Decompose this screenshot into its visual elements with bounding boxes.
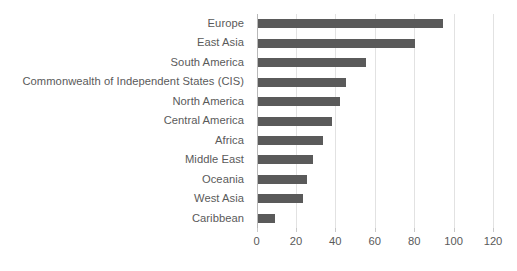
category-label: Middle East xyxy=(185,150,244,169)
tick-label: 80 xyxy=(394,235,434,247)
tick-label: 0 xyxy=(237,235,277,247)
tick-label: 120 xyxy=(473,235,513,247)
plot-area xyxy=(257,14,494,228)
bar xyxy=(258,136,323,145)
bar xyxy=(258,175,307,184)
tick-label: 20 xyxy=(276,235,316,247)
category-label: Africa xyxy=(215,131,244,150)
tick-label: 100 xyxy=(434,235,474,247)
category-label: South America xyxy=(171,53,244,72)
category-label: Oceania xyxy=(202,170,244,189)
bar-chart: EuropeEast AsiaSouth AmericaCommonwealth… xyxy=(0,0,517,271)
value-axis: 020406080100120 xyxy=(257,228,494,258)
category-label: North America xyxy=(172,92,244,111)
bar xyxy=(258,194,303,203)
tick-mark-80 xyxy=(414,228,415,232)
bar xyxy=(258,39,416,48)
bar xyxy=(258,117,333,126)
bar xyxy=(258,97,341,106)
bar xyxy=(258,155,313,164)
tick-mark-40 xyxy=(335,228,336,232)
gridline-120 xyxy=(493,14,494,228)
category-axis: EuropeEast AsiaSouth AmericaCommonwealth… xyxy=(0,14,250,228)
tick-mark-100 xyxy=(454,228,455,232)
tick-mark-120 xyxy=(493,228,494,232)
bar xyxy=(258,214,276,223)
category-label: East Asia xyxy=(197,33,244,52)
bar xyxy=(258,19,443,28)
gridline-100 xyxy=(454,14,455,228)
category-label: Caribbean xyxy=(192,209,244,228)
bar xyxy=(258,78,347,87)
category-label: Commonwealth of Independent States (CIS) xyxy=(22,72,244,91)
tick-mark-0 xyxy=(257,228,258,232)
category-label: Central America xyxy=(164,111,244,130)
tick-mark-60 xyxy=(375,228,376,232)
tick-label: 40 xyxy=(315,235,355,247)
category-label: West Asia xyxy=(194,189,244,208)
tick-label: 60 xyxy=(355,235,395,247)
tick-mark-20 xyxy=(296,228,297,232)
category-label: Europe xyxy=(208,14,244,33)
bar xyxy=(258,58,366,67)
